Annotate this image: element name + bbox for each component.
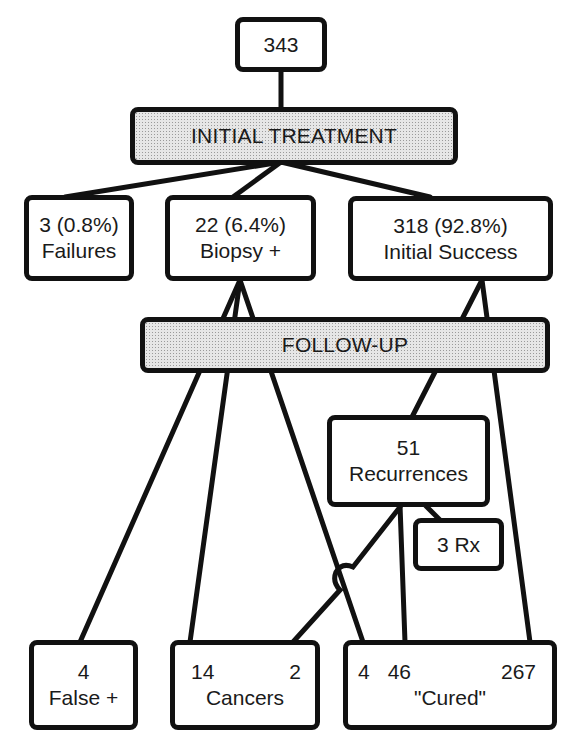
failures-box: 3 (0.8%) Failures xyxy=(24,195,134,281)
initial-treatment-label: INITIAL TREATMENT xyxy=(191,123,397,149)
recurrences-label: Recurrences xyxy=(349,461,468,487)
cured-value-from-biopsy: 4 xyxy=(358,659,370,685)
follow-up-label: FOLLOW-UP xyxy=(282,332,408,358)
root-count: 343 xyxy=(263,32,298,58)
initial-treatment-bar: INITIAL TREATMENT xyxy=(130,107,458,165)
cancers-box: 14 2 Cancers xyxy=(170,640,320,730)
initial-success-label: Initial Success xyxy=(383,239,517,265)
cured-value-from-recurrence: 46 xyxy=(388,659,411,685)
false-positive-value: 4 xyxy=(78,659,90,685)
false-positive-label: False + xyxy=(49,685,118,711)
retreatment-box: 3 Rx xyxy=(413,518,504,571)
recurrences-box: 51 Recurrences xyxy=(327,415,490,507)
initial-success-box: 318 (92.8%) Initial Success xyxy=(348,196,553,281)
cured-label: "Cured" xyxy=(414,685,486,711)
false-positive-box: 4 False + xyxy=(29,640,138,730)
cancers-label: Cancers xyxy=(206,685,284,711)
failures-value: 3 (0.8%) xyxy=(39,212,118,238)
cancers-value-from-recurrence: 2 xyxy=(289,659,301,685)
biopsy-positive-label: Biopsy + xyxy=(200,238,281,264)
cured-box: 4 46 267 "Cured" xyxy=(343,640,557,730)
retreatment-label: 3 Rx xyxy=(437,532,480,558)
biopsy-positive-value: 22 (6.4%) xyxy=(195,212,286,238)
initial-success-value: 318 (92.8%) xyxy=(393,213,507,239)
recurrences-value: 51 xyxy=(397,435,420,461)
biopsy-positive-box: 22 (6.4%) Biopsy + xyxy=(165,195,316,281)
cured-value-from-initial-success: 267 xyxy=(501,659,536,685)
cancers-value-from-biopsy: 14 xyxy=(191,659,214,685)
root-count-box: 343 xyxy=(235,17,327,72)
follow-up-bar: FOLLOW-UP xyxy=(140,317,550,373)
failures-label: Failures xyxy=(42,238,117,264)
